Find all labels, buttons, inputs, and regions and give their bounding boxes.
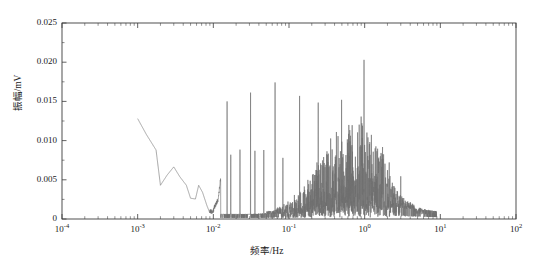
x-tick-label: 101 xyxy=(420,225,460,234)
x-tick-exponent: -2 xyxy=(215,222,220,229)
axis-ticks xyxy=(62,23,516,219)
x-tick-mantissa: 10 xyxy=(510,224,519,234)
axes-frame xyxy=(62,23,516,219)
x-tick-exponent: -4 xyxy=(64,222,69,229)
x-tick-label: 10-2 xyxy=(193,225,233,234)
y-tick-label: 0 xyxy=(14,214,57,223)
x-axis-title: 频率/Hz xyxy=(0,243,533,257)
x-tick-mantissa: 10 xyxy=(282,224,291,234)
x-tick-mantissa: 10 xyxy=(434,224,443,234)
y-tick-label: 0.025 xyxy=(14,18,57,27)
spectrum-chart-figure: 00.0050.0100.0150.0200.025 10-410-310-21… xyxy=(0,0,533,261)
x-tick-exponent: 2 xyxy=(519,222,522,229)
x-tick-exponent: -1 xyxy=(291,222,296,229)
x-tick-mantissa: 10 xyxy=(206,224,215,234)
x-tick-exponent: -3 xyxy=(139,222,144,229)
x-tick-label: 102 xyxy=(496,225,533,234)
x-tick-exponent: 1 xyxy=(443,222,446,229)
x-tick-mantissa: 10 xyxy=(55,224,64,234)
y-tick-label: 0.005 xyxy=(14,175,57,184)
y-axis-title: 振幅/mV xyxy=(10,58,24,128)
x-tick-label: 10-4 xyxy=(42,225,82,234)
x-tick-mantissa: 10 xyxy=(359,224,368,234)
x-tick-exponent: 0 xyxy=(368,222,371,229)
x-tick-label: 10-3 xyxy=(118,225,158,234)
spectrum-plot-svg xyxy=(0,0,533,261)
x-tick-label: 10-1 xyxy=(269,225,309,234)
x-tick-label: 100 xyxy=(345,225,385,234)
spectrum-data-line xyxy=(138,60,437,218)
y-tick-label: 0.010 xyxy=(14,136,57,145)
